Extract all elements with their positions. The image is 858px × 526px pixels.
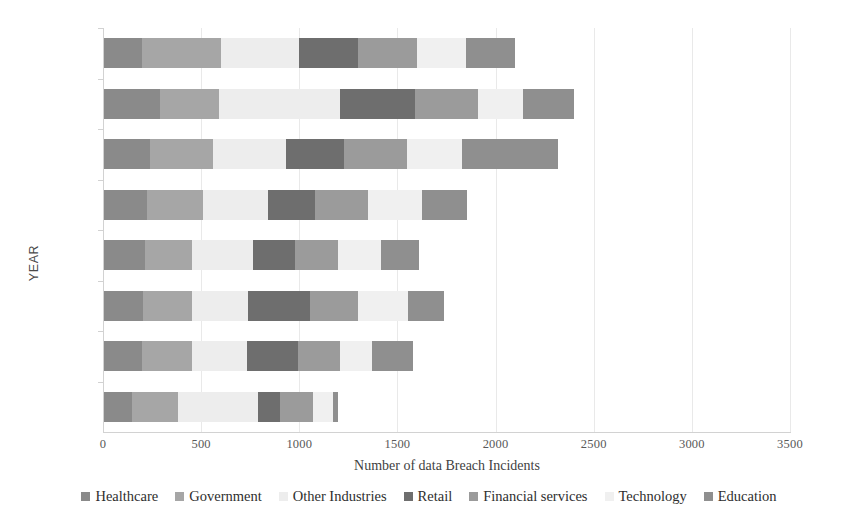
x-axis-line (103, 432, 791, 433)
chart-legend: HealthcareGovernmentOther IndustriesReta… (0, 488, 858, 505)
bar-segment (103, 392, 132, 422)
bar-row (103, 240, 419, 270)
legend-label: Retail (418, 488, 453, 505)
legend-item[interactable]: Other Industries (279, 488, 387, 505)
gridline (790, 28, 791, 432)
bar-segment (247, 341, 298, 371)
bar-segment (340, 341, 371, 371)
bar-segment (298, 341, 340, 371)
bar-segment (103, 190, 147, 220)
bar-row (103, 392, 338, 422)
bar-segment (150, 139, 213, 169)
bar-row (103, 291, 444, 321)
bar-segment (142, 341, 192, 371)
bar-segment (103, 139, 150, 169)
x-axis-tick-label: 1500 (385, 437, 411, 452)
bar-segment (213, 139, 286, 169)
legend-swatch-icon (605, 492, 614, 501)
bar-segment (258, 392, 280, 422)
bar-row (103, 139, 558, 169)
legend-swatch-icon (279, 492, 288, 501)
x-axis-tick-label: 3000 (679, 437, 705, 452)
bar-segment (415, 89, 478, 119)
bar-segment (268, 190, 315, 220)
bar-segment (338, 240, 380, 270)
bar-segment (333, 392, 339, 422)
bar-segment (407, 139, 462, 169)
bar-segment (280, 392, 313, 422)
bar-segment (178, 392, 258, 422)
bar-row (103, 190, 467, 220)
gridline (692, 28, 693, 432)
bar-segment (103, 89, 160, 119)
y-axis-tick-mark (98, 230, 103, 231)
y-axis-tick-mark (98, 281, 103, 282)
bar-segment (358, 38, 417, 68)
bar-segment (310, 291, 358, 321)
bar-segment (523, 89, 574, 119)
legend-item[interactable]: Government (175, 488, 261, 505)
x-axis-tick-label: 2000 (483, 437, 509, 452)
bar-segment (219, 89, 341, 119)
legend-swatch-icon (404, 492, 413, 501)
y-axis-tick-mark (98, 331, 103, 332)
legend-swatch-icon (704, 492, 713, 501)
legend-swatch-icon (469, 492, 478, 501)
bar-segment (103, 341, 142, 371)
bar-segment (248, 291, 310, 321)
bar-segment (417, 38, 466, 68)
bar-segment (295, 240, 338, 270)
bar-segment (192, 240, 253, 270)
bar-segment (462, 139, 558, 169)
bar-segment (132, 392, 177, 422)
legend-item[interactable]: Education (704, 488, 777, 505)
bar-segment (340, 89, 415, 119)
bar-segment (203, 190, 268, 220)
bar-row (103, 341, 413, 371)
bar-segment (372, 341, 413, 371)
bar-segment (192, 341, 247, 371)
bar-segment (408, 291, 443, 321)
bar-segment (313, 392, 333, 422)
x-axis-tick-label: 3500 (777, 437, 803, 452)
bar-segment (381, 240, 419, 270)
bar-segment (103, 38, 142, 68)
y-axis-title: YEAR (27, 245, 41, 281)
bar-segment (299, 38, 358, 68)
bar-segment (145, 240, 192, 270)
y-axis-line (103, 28, 104, 433)
bar-segment (147, 190, 203, 220)
y-axis-tick-mark (98, 129, 103, 130)
legend-label: Financial services (483, 488, 587, 505)
bar-segment (368, 190, 422, 220)
x-axis-title: Number of data Breach Incidents (103, 458, 791, 474)
bar-row (103, 89, 574, 119)
x-axis-tick-label: 0 (100, 437, 106, 452)
x-axis-tick-label: 500 (191, 437, 210, 452)
bar-segment (103, 291, 143, 321)
bar-segment (103, 240, 145, 270)
bar-segment (192, 291, 248, 321)
legend-swatch-icon (175, 492, 184, 501)
bar-row (103, 38, 515, 68)
legend-label: Education (718, 488, 777, 505)
gridline (594, 28, 595, 432)
legend-item[interactable]: Retail (404, 488, 453, 505)
legend-item[interactable]: Financial services (469, 488, 587, 505)
legend-label: Technology (619, 488, 687, 505)
legend-item[interactable]: Healthcare (81, 488, 158, 505)
bar-segment (466, 38, 515, 68)
y-axis-tick-mark (98, 28, 103, 29)
legend-label: Other Industries (293, 488, 387, 505)
y-axis-tick-labels: 20202019201820172016201520142013 (0, 0, 94, 526)
bar-segment (221, 38, 300, 68)
y-axis-tick-mark (98, 180, 103, 181)
bar-segment (143, 291, 192, 321)
bar-segment (358, 291, 408, 321)
y-axis-tick-mark (98, 79, 103, 80)
bar-segment (142, 38, 221, 68)
x-axis-tick-label: 2500 (581, 437, 607, 452)
bar-segment (253, 240, 295, 270)
chart-container: 20202019201820172016201520142013 0500100… (0, 0, 858, 526)
legend-item[interactable]: Technology (605, 488, 687, 505)
